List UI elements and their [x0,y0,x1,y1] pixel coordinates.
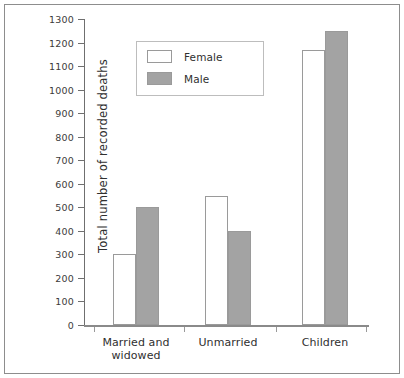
x-tick-mark [94,327,95,332]
y-tick-label: 300 [55,249,74,260]
y-tick-mark [78,137,84,138]
bar-male-0 [136,207,159,325]
y-tick-label: 1200 [49,37,74,48]
x-axis-label-line: Unmarried [173,336,283,349]
y-tick-mark [78,160,84,161]
x-axis-label-1: Unmarried [173,336,283,349]
y-tick-label: 1100 [49,61,74,72]
y-tick-label: 800 [55,131,74,142]
y-tick-label: 200 [55,272,74,283]
y-tick-label: 400 [55,225,74,236]
y-tick-mark [78,90,84,91]
bar-male-2 [325,31,348,325]
legend-label-male: Male [184,73,209,85]
legend: Female Male [136,41,264,96]
y-axis-line [84,19,85,326]
y-tick-mark [78,278,84,279]
y-tick-mark [78,207,84,208]
y-tick-mark [78,43,84,44]
bar-male-1 [228,231,251,325]
x-tick-mark [184,327,185,332]
bar-chart-figure: Total number of recorded deaths 01002003… [0,0,404,378]
legend-swatch-female-icon [147,50,172,63]
y-tick-label: 600 [55,178,74,189]
y-tick-mark [78,231,84,232]
x-axis-label-line: Children [270,336,380,349]
x-axis-label-2: Children [270,336,380,349]
y-tick-mark [78,19,84,20]
y-tick-label: 0 [68,320,74,331]
y-tick-label: 900 [55,108,74,119]
legend-swatch-male-icon [147,72,172,85]
legend-label-female: Female [184,51,223,63]
x-axis-label-line: widowed [81,349,191,362]
y-tick-mark [78,113,84,114]
x-tick-mark [276,327,277,332]
y-tick-mark [78,254,84,255]
y-axis-title: Total number of recorded deaths [96,26,110,286]
y-tick-mark [78,301,84,302]
y-tick-label: 100 [55,296,74,307]
legend-item-male: Male [147,72,209,85]
x-axis-line [84,325,369,327]
y-tick-label: 1000 [49,84,74,95]
bar-female-0 [113,254,136,325]
bar-female-1 [205,196,228,325]
legend-item-female: Female [147,50,223,63]
y-tick-mark [78,325,84,326]
x-tick-mark [366,327,367,332]
y-tick-label: 500 [55,202,74,213]
y-tick-label: 700 [55,155,74,166]
bar-female-2 [302,50,325,325]
y-tick-mark [78,66,84,67]
y-tick-label: 1300 [49,14,74,25]
y-tick-mark [78,184,84,185]
